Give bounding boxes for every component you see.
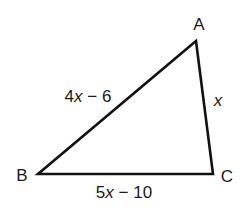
vertex-label-a: A xyxy=(193,15,205,34)
side-label-ab: 4x − 6 xyxy=(65,87,112,106)
triangle-diagram: A B C 4x − 6 x 5x − 10 xyxy=(0,0,241,208)
side-ab-constant: − 6 xyxy=(83,87,112,106)
side-bc-coefficient: 5 xyxy=(96,183,105,202)
vertex-label-b: B xyxy=(16,166,27,185)
side-label-ac: x xyxy=(213,91,223,110)
vertex-label-c: C xyxy=(221,167,233,186)
side-ab-coefficient: 4 xyxy=(65,87,74,106)
side-ab-variable: x xyxy=(73,87,83,106)
side-label-bc: 5x − 10 xyxy=(96,183,152,202)
side-bc-constant: − 10 xyxy=(114,183,152,202)
side-bc-variable: x xyxy=(104,183,114,202)
